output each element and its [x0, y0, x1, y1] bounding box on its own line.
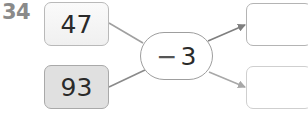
line-bottom-input-to-op	[109, 70, 145, 87]
input-box-bottom: 93	[44, 65, 109, 109]
arrow-op-to-top-output	[208, 25, 245, 41]
operand: 3	[181, 42, 197, 71]
arrow-op-to-bottom-output	[209, 72, 245, 87]
operation-pill: − 3	[140, 32, 213, 80]
answer-box-bottom[interactable]	[246, 66, 308, 109]
answer-box-top[interactable]	[246, 3, 308, 46]
problem-number: 34	[2, 0, 30, 24]
minus-sign: −	[157, 42, 178, 71]
input-box-top: 47	[44, 2, 109, 46]
line-top-input-to-op	[109, 23, 143, 43]
input-value-bottom: 93	[61, 73, 93, 102]
input-value-top: 47	[61, 10, 93, 39]
